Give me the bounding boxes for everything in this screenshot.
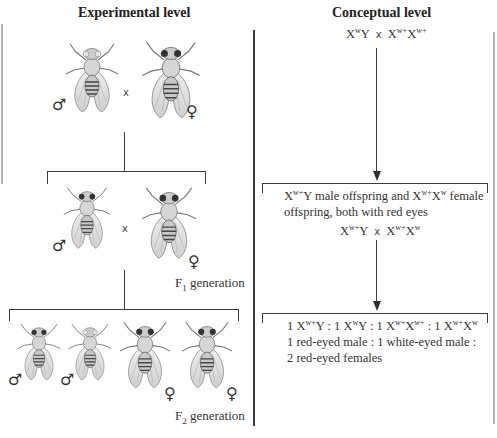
f1-description: Xw+Y male offspring and Xw+Xw female off… [284, 188, 494, 220]
allele-superscript: w+ [305, 318, 315, 327]
male-symbol: ♂ [8, 372, 22, 388]
female-symbol: ♀ [188, 254, 200, 270]
genotype-base: X [386, 319, 395, 333]
female-symbol: ♀ [164, 386, 176, 402]
allele-superscript: w+ [395, 223, 405, 232]
genotype-rest: Y [316, 319, 325, 333]
f2-red-eyed-female-fly [118, 318, 172, 392]
f1-box-top [262, 183, 488, 184]
arrow-shaft [376, 48, 377, 173]
allele-superscript: w [472, 318, 478, 327]
cross-symbol: x [122, 223, 128, 234]
f2-box-left [262, 313, 263, 323]
genotype-rest: Y [359, 224, 368, 238]
allele-superscript: w+ [397, 26, 407, 35]
allele-superscript: w [415, 223, 421, 232]
f1-male-fly [62, 183, 112, 253]
left-frame-line [1, 24, 3, 184]
genotype-base: X [405, 319, 414, 333]
conceptual-level-heading: Conceptual level [332, 5, 431, 21]
f2-bracket-left [9, 309, 10, 321]
genotype-rest: Y [361, 27, 370, 41]
f2-box-right [487, 313, 488, 323]
connector-line [124, 270, 125, 310]
f2-generation-label: F2 generation [175, 408, 245, 426]
male-symbol: ♂ [60, 372, 74, 388]
f2-phenotype-line2: 2 red-eyed females [287, 350, 478, 366]
male-symbol: ♂ [52, 238, 66, 254]
f1-genotype-cross: Xw+Y x Xw+Xw [340, 224, 420, 239]
f2-phenotype-line1: 1 red-eyed male : 1 white-eyed male : [287, 334, 478, 350]
f1-female-fly [140, 183, 198, 263]
allele-superscript: w+ [453, 318, 463, 327]
allele-superscript: w+ [293, 188, 303, 197]
male-genotype: XwY [346, 27, 369, 41]
count: 1 [434, 319, 440, 333]
allele-superscript: w+ [416, 26, 426, 35]
separator: : [425, 319, 435, 333]
cross-symbol: x [374, 226, 380, 237]
f2-bracket [9, 309, 239, 310]
f1-bracket-right [205, 171, 206, 184]
genotype-base: X [407, 27, 416, 41]
male-symbol: ♂ [52, 97, 66, 113]
allele-superscript: w+ [395, 318, 405, 327]
genotype-base: X [406, 224, 415, 238]
parental-genotype-cross: XwY x Xw+Xw+ [346, 27, 426, 42]
arrow-head-icon [373, 301, 381, 311]
genotype-base: X [463, 319, 472, 333]
allele-superscript: w+ [421, 188, 431, 197]
female-symbol: ♀ [186, 104, 198, 120]
genotype-base: X [432, 189, 441, 203]
text: Y male offspring and [303, 189, 412, 203]
separator: : [367, 319, 377, 333]
genotype-base: X [346, 27, 355, 41]
genotype-base: X [444, 319, 453, 333]
f2-red-eyed-male-fly [16, 320, 62, 384]
genotype-base: X [340, 224, 349, 238]
connector-line [124, 132, 125, 172]
count: 1 [377, 319, 383, 333]
arrow-head-icon [373, 171, 381, 181]
label-text: generation [187, 275, 245, 290]
count: 1 [287, 319, 293, 333]
text: female [446, 189, 483, 203]
f2-genotype-ratio: 1 Xw+Y : 1 XwY : 1 Xw+Xw+ : 1 Xw+Xw [287, 319, 478, 333]
female-symbol: ♀ [226, 386, 238, 402]
f1-box-left [262, 183, 263, 193]
f1-generation-label: F1 generation [175, 275, 245, 293]
arrow-shaft [376, 240, 377, 303]
f1-bracket-left [47, 171, 48, 184]
male-genotype: Xw+Y [340, 224, 368, 238]
allele-superscript: w+ [349, 223, 359, 232]
genotype-base: X [388, 27, 397, 41]
genotype-base: X [284, 189, 293, 203]
genotype-base: X [386, 224, 395, 238]
allele-superscript: w+ [414, 318, 424, 327]
center-divider [253, 30, 255, 426]
female-genotype: Xw+Xw+ [388, 27, 427, 41]
f2-red-eyed-female-fly [180, 318, 234, 392]
right-frame-line [493, 32, 495, 424]
cross-symbol: x [376, 29, 382, 40]
f2-box-top [262, 313, 488, 314]
experimental-level-heading: Experimental level [78, 5, 190, 21]
cross-symbol: x [123, 87, 129, 98]
f1-description-line1: Xw+Y male offspring and Xw+Xw female [284, 188, 494, 204]
separator: : [324, 319, 334, 333]
parental-male-fly [64, 40, 120, 116]
count: 1 [334, 319, 340, 333]
label-text: generation [187, 408, 245, 423]
genotype-rest: Y [358, 319, 367, 333]
female-genotype: Xw+Xw [386, 224, 420, 238]
f2-ratio: 1 Xw+Y : 1 XwY : 1 Xw+Xw+ : 1 Xw+Xw 1 re… [287, 318, 478, 366]
f1-bracket [47, 171, 206, 172]
f2-bracket-right [238, 309, 239, 321]
f1-description-line2: offspring, both with red eyes [284, 204, 494, 220]
